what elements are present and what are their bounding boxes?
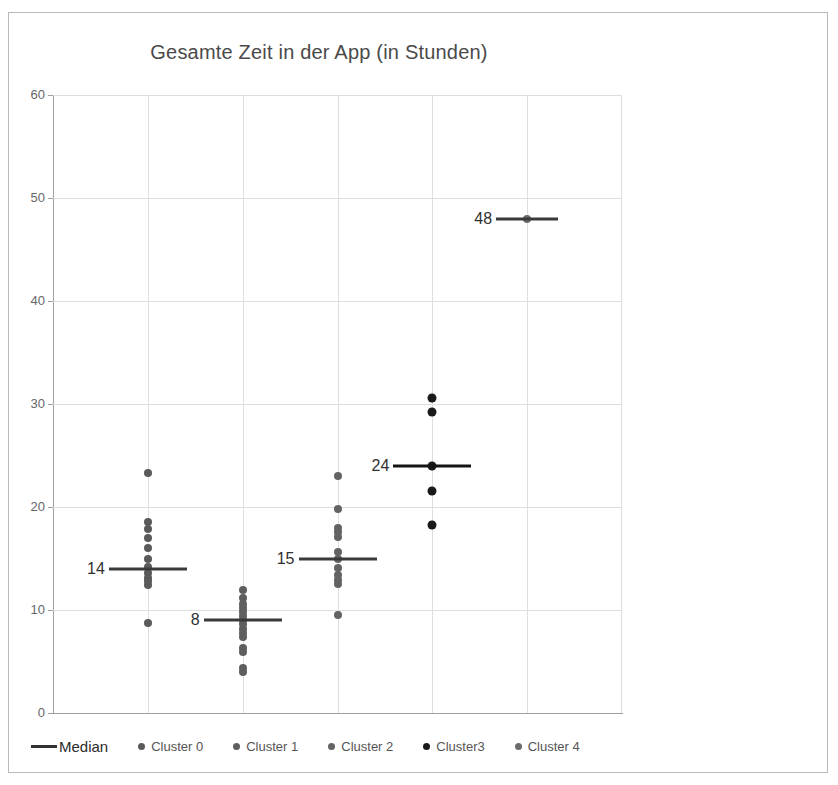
data-point	[428, 408, 437, 417]
plot-area: 148152448	[53, 95, 622, 713]
legend-label: Cluster 2	[341, 739, 393, 754]
legend-label: Median	[59, 738, 108, 755]
legend-dot-icon	[515, 743, 522, 750]
median-line	[109, 567, 187, 570]
legend-item[interactable]: Cluster3	[423, 739, 484, 754]
data-point	[239, 648, 247, 656]
data-point	[334, 533, 342, 541]
y-axis-tick-label: 10	[15, 602, 45, 617]
data-point	[334, 472, 342, 480]
y-axis-tick-label: 30	[15, 396, 45, 411]
legend-dot-icon	[138, 743, 145, 750]
chart-frame: Gesamte Zeit in der App (in Stunden) 010…	[8, 12, 828, 773]
median-line	[496, 217, 558, 220]
median-label: 24	[372, 457, 390, 475]
median-line	[299, 557, 377, 560]
data-point	[144, 619, 152, 627]
median-line	[393, 464, 471, 467]
data-point	[239, 668, 247, 676]
y-axis-tick-label: 0	[15, 705, 45, 720]
y-axis-tick-label: 60	[15, 87, 45, 102]
legend-dot-icon	[233, 743, 240, 750]
legend-item[interactable]: Cluster 2	[328, 739, 393, 754]
median-line	[204, 619, 282, 622]
y-axis-tick-label: 20	[15, 499, 45, 514]
data-point	[239, 633, 247, 641]
data-point	[144, 525, 152, 533]
x-axis-line	[53, 713, 623, 714]
data-point	[334, 505, 342, 513]
legend-label: Cluster3	[436, 739, 484, 754]
gridline-vertical	[432, 95, 433, 713]
legend-label: Cluster 4	[528, 739, 580, 754]
y-axis-tick-label: 50	[15, 190, 45, 205]
data-point	[144, 581, 152, 589]
median-label: 14	[87, 560, 105, 578]
legend-item[interactable]: Median	[31, 738, 108, 755]
median-label: 15	[277, 550, 295, 568]
data-point	[334, 611, 342, 619]
median-label: 8	[191, 611, 200, 629]
legend-item[interactable]: Cluster 0	[138, 739, 203, 754]
gridline-vertical	[338, 95, 339, 713]
data-point	[144, 555, 152, 563]
data-point	[334, 580, 342, 588]
legend-label: Cluster 0	[151, 739, 203, 754]
median-label: 48	[474, 210, 492, 228]
data-point	[428, 393, 437, 402]
legend-dot-icon	[328, 743, 335, 750]
data-point	[144, 544, 152, 552]
chart-legend: MedianCluster 0Cluster 1Cluster 2Cluster…	[31, 733, 610, 759]
gridline-vertical	[527, 95, 528, 713]
data-point	[144, 469, 152, 477]
legend-label: Cluster 1	[246, 739, 298, 754]
y-axis-labels: 0102030405060	[9, 13, 45, 785]
chart-title: Gesamte Zeit in der App (in Stunden)	[9, 41, 629, 64]
legend-line-icon	[31, 745, 57, 748]
legend-item[interactable]: Cluster 1	[233, 739, 298, 754]
data-point	[144, 534, 152, 542]
y-axis-tick-label: 40	[15, 293, 45, 308]
legend-item[interactable]: Cluster 4	[515, 739, 580, 754]
legend-dot-icon	[423, 743, 430, 750]
data-point	[428, 486, 437, 495]
data-point	[428, 520, 437, 529]
